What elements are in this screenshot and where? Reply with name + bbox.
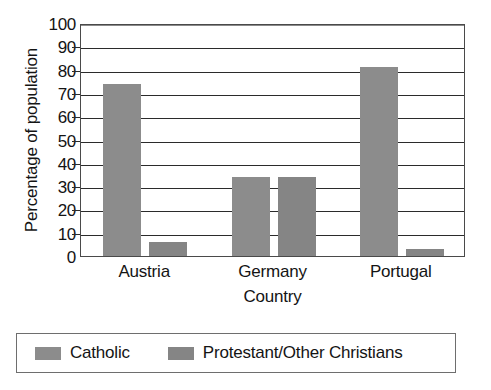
gridline: [81, 25, 464, 26]
y-axis-tick-mark: [72, 164, 80, 165]
x-axis-tick-label: Austria: [80, 262, 208, 282]
bar-germany-protestant: [278, 177, 316, 256]
y-axis-tick-label: 100: [30, 16, 76, 33]
x-axis-title: Country: [80, 287, 465, 307]
y-axis-tick-label: 70: [30, 86, 76, 103]
y-axis-tick-mark: [72, 141, 80, 142]
y-axis-tick-labels: 1009080706050403020100: [30, 14, 76, 262]
legend-swatch-icon: [35, 347, 61, 360]
plot-area: [80, 24, 465, 257]
y-axis-tick-mark: [72, 47, 80, 48]
x-axis-tick-label: Portugal: [337, 262, 465, 282]
legend-item-protestant: Protestant/Other Christians: [168, 343, 403, 363]
gridline: [81, 48, 464, 49]
y-axis-tick-mark: [72, 187, 80, 188]
y-axis-tick-label: 0: [30, 249, 76, 266]
legend-swatch-icon: [168, 347, 194, 360]
chart-legend: CatholicProtestant/Other Christians: [16, 333, 456, 373]
bar-austria-catholic: [103, 84, 141, 256]
x-axis-tick-label: Germany: [208, 262, 336, 282]
y-axis-tick-label: 90: [30, 39, 76, 56]
y-axis-tick-label: 30: [30, 179, 76, 196]
y-axis-tick-mark: [72, 234, 80, 235]
bar-portugal-protestant: [406, 249, 444, 256]
gridline: [81, 72, 464, 73]
y-axis-tick-label: 60: [30, 109, 76, 126]
y-axis-tick-label: 20: [30, 202, 76, 219]
y-axis-tick-label: 10: [30, 226, 76, 243]
bar-austria-protestant: [149, 242, 187, 256]
bar-chart-figure: Percentage of population 100908070605040…: [0, 0, 491, 390]
y-axis-tick-mark: [72, 94, 80, 95]
bar-germany-catholic: [232, 177, 270, 256]
y-axis-tick-mark: [72, 71, 80, 72]
legend-item-label: Protestant/Other Christians: [203, 343, 403, 363]
bar-portugal-catholic: [360, 67, 398, 256]
y-axis-tick-label: 40: [30, 156, 76, 173]
y-axis-tick-label: 80: [30, 63, 76, 80]
legend-item-catholic: Catholic: [35, 343, 130, 363]
legend-item-label: Catholic: [70, 343, 130, 363]
y-axis-tick-mark: [72, 210, 80, 211]
y-axis-tick-label: 50: [30, 133, 76, 150]
x-axis-tick-labels: AustriaGermanyPortugal: [80, 262, 465, 288]
y-axis-tick-mark: [72, 117, 80, 118]
